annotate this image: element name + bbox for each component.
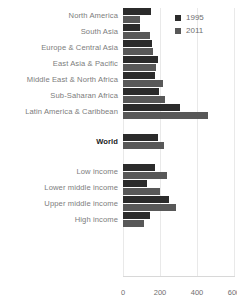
bar-2011 (123, 16, 140, 23)
chart-row: Lower middle income (0, 180, 237, 196)
x-tick-label: 0 (121, 288, 125, 297)
bar-1995 (123, 56, 158, 63)
category-label: High income (2, 212, 118, 228)
category-label: Europe & Central Asia (2, 40, 118, 56)
category-label: North America (2, 8, 118, 24)
category-label: World (2, 134, 118, 150)
bar-1995 (123, 104, 180, 111)
chart-row: World (0, 134, 237, 150)
category-label: Upper middle income (2, 196, 118, 212)
bar-2011 (123, 64, 156, 71)
bar-1995 (123, 88, 159, 95)
category-label: Latin America & Caribbean (2, 104, 118, 120)
category-label: Middle East & North Africa (2, 72, 118, 88)
bar-1995 (123, 180, 147, 187)
chart-row: Low income (0, 164, 237, 180)
x-tick-label: 600 (228, 288, 237, 297)
bar-2011 (123, 32, 150, 39)
category-label: Lower middle income (2, 180, 118, 196)
bar-2011 (123, 188, 160, 195)
category-label: East Asia & Pacific (2, 56, 118, 72)
chart-row: East Asia & Pacific (0, 56, 237, 72)
x-tick-label: 200 (154, 288, 167, 297)
bar-1995 (123, 212, 150, 219)
chart-row: Sub-Saharan Africa (0, 88, 237, 104)
bar-1995 (123, 196, 169, 203)
x-tick-label: 400 (191, 288, 204, 297)
category-label: Sub-Saharan Africa (2, 88, 118, 104)
bar-2011 (123, 96, 165, 103)
bar-1995 (123, 24, 140, 31)
chart-row: South Asia (0, 24, 237, 40)
chart-row: Middle East & North Africa (0, 72, 237, 88)
x-axis-baseline (123, 276, 235, 277)
chart-row: Latin America & Caribbean (0, 104, 237, 120)
bar-2011 (123, 142, 164, 149)
bar-1995 (123, 40, 152, 47)
category-label: South Asia (2, 24, 118, 40)
bar-2011 (123, 204, 176, 211)
chart-row: Europe & Central Asia (0, 40, 237, 56)
bar-2011 (123, 48, 153, 55)
chart-row: North America (0, 8, 237, 24)
bar-1995 (123, 8, 151, 15)
bar-2011 (123, 112, 208, 119)
bar-2011 (123, 80, 163, 87)
bar-chart: 19952011 0200400600 North AmericaSouth A… (0, 0, 237, 306)
chart-row: High income (0, 212, 237, 228)
category-label: Low income (2, 164, 118, 180)
bar-1995 (123, 72, 155, 79)
bar-1995 (123, 164, 155, 171)
bar-1995 (123, 134, 158, 141)
chart-row: Upper middle income (0, 196, 237, 212)
x-axis-ticks: 0200400600 (0, 288, 237, 302)
bar-2011 (123, 220, 144, 227)
bar-2011 (123, 172, 167, 179)
